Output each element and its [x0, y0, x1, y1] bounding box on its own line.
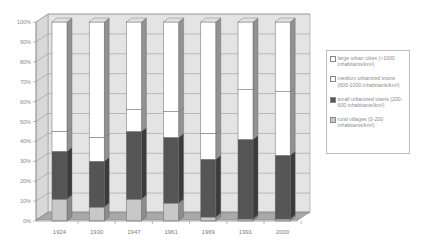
- bar-segment-side: [141, 127, 146, 199]
- legend-swatch-icon: [330, 76, 336, 82]
- bar-2000: [275, 18, 295, 221]
- bar-segment-side: [253, 86, 258, 140]
- bar-segment: [275, 92, 290, 156]
- bar-1991: [238, 18, 258, 221]
- x-axis: 1924193019471961196919912000: [36, 221, 301, 235]
- bar-segment-side: [67, 18, 72, 131]
- legend-item: rural villages (0-200 inhabitants/km²): [330, 116, 406, 128]
- x-tick-label: 1930: [90, 229, 104, 235]
- bar-segment-side: [141, 106, 146, 132]
- bar-segment-side: [253, 18, 258, 90]
- y-tick-label: 100%: [17, 19, 31, 25]
- legend-swatch-icon: [330, 97, 336, 103]
- bar-segment: [164, 137, 179, 203]
- bar-segment-side: [141, 18, 146, 110]
- y-axis: 0%10%20%30%40%50%60%70%80%90%100%: [17, 19, 36, 224]
- bar-segment-side: [216, 155, 221, 217]
- bar-segment-side: [179, 133, 184, 203]
- x-tick-label: 2000: [276, 229, 290, 235]
- y-tick-label: 0%: [23, 218, 31, 224]
- legend-label: rural villages (0-200 inhabitants/km²): [338, 116, 407, 128]
- y-tick-label: 80%: [20, 59, 31, 65]
- bar-1930: [89, 18, 109, 221]
- bar-segment: [238, 22, 253, 90]
- bar-segment: [201, 159, 216, 217]
- bar-segment-side: [141, 195, 146, 221]
- bar-1947: [126, 18, 146, 221]
- bar-segment: [164, 203, 179, 221]
- bar-segment: [52, 199, 67, 221]
- legend-label: small urbanized towns (200-600 inhabitan…: [338, 96, 407, 108]
- bar-segment-side: [290, 18, 295, 92]
- bar-segment: [126, 110, 141, 132]
- bar-segment-side: [67, 147, 72, 199]
- bar-segment-side: [216, 18, 221, 133]
- bar-segment: [89, 207, 104, 221]
- bar-segment: [164, 112, 179, 138]
- x-tick-label: 1991: [239, 229, 253, 235]
- y-tick-label: 50%: [20, 119, 31, 125]
- bar-segment-side: [290, 151, 295, 219]
- bar-segment-side: [290, 88, 295, 156]
- chart-side-wall: [36, 14, 48, 220]
- bar-segment: [201, 133, 216, 159]
- legend-item: small urbanized towns (200-600 inhabitan…: [330, 96, 406, 108]
- bar-segment: [201, 217, 216, 221]
- bar-segment: [238, 90, 253, 140]
- legend-swatch-icon: [330, 56, 336, 62]
- bar-segment: [201, 22, 216, 133]
- bar-segment-side: [104, 18, 109, 137]
- bar-1961: [164, 18, 184, 221]
- legend-item: large urban cities (>1000 inhabitants/km…: [330, 55, 406, 67]
- bar-segment: [89, 137, 104, 161]
- bar-1924: [52, 18, 72, 221]
- bar-segment: [52, 151, 67, 199]
- bar-segment-side: [253, 135, 258, 219]
- y-tick-label: 10%: [20, 198, 31, 204]
- bar-segment-side: [104, 157, 109, 207]
- y-tick-label: 70%: [20, 79, 31, 85]
- y-tick-label: 40%: [20, 138, 31, 144]
- bar-segment: [275, 155, 290, 219]
- bar-segment: [126, 22, 141, 110]
- bar-segment: [238, 139, 253, 219]
- bar-segment-side: [104, 133, 109, 161]
- bar-segment-side: [67, 195, 72, 221]
- y-tick-label: 20%: [20, 178, 31, 184]
- bar-segment: [126, 131, 141, 199]
- bar-segment: [89, 161, 104, 207]
- bar-segment: [164, 22, 179, 112]
- bar-segment: [126, 199, 141, 221]
- legend-swatch-icon: [330, 117, 336, 123]
- bar-segment-side: [179, 108, 184, 138]
- bar-segment: [275, 22, 290, 92]
- bar-segment: [52, 22, 67, 131]
- bar-segment: [52, 131, 67, 151]
- bar-segment-side: [179, 18, 184, 112]
- legend-label: large urban cities (>1000 inhabitants/km…: [338, 55, 407, 67]
- x-tick-label: 1961: [164, 229, 178, 235]
- x-tick-label: 1969: [202, 229, 216, 235]
- y-tick-label: 30%: [20, 158, 31, 164]
- legend-item: medium urbanized towns (600-1000 inhabit…: [330, 75, 406, 87]
- y-tick-label: 60%: [20, 99, 31, 105]
- legend: large urban cities (>1000 inhabitants/km…: [326, 50, 410, 154]
- bar-1969: [201, 18, 221, 221]
- x-tick-label: 1924: [53, 229, 67, 235]
- y-tick-label: 90%: [20, 39, 31, 45]
- x-tick-label: 1947: [127, 229, 141, 235]
- bar-segment-side: [216, 129, 221, 159]
- legend-label: medium urbanized towns (600-1000 inhabit…: [338, 75, 407, 87]
- bar-segment: [89, 22, 104, 137]
